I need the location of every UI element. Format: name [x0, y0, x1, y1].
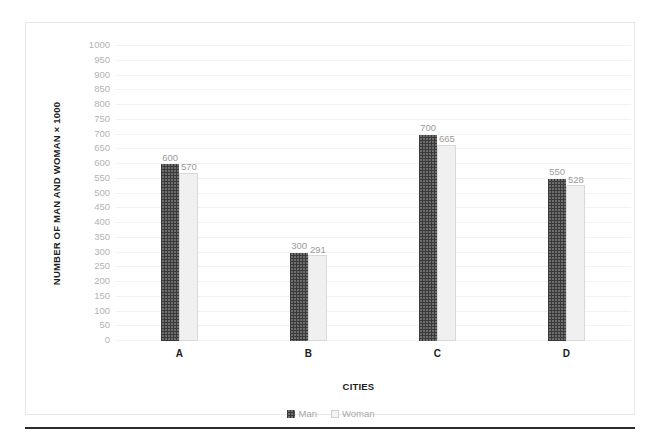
bar-value-label: 665: [438, 134, 455, 144]
y-axis-tick-label: 950: [94, 55, 110, 65]
bars-layer: 600570A300291B700665C550528D: [115, 46, 631, 341]
legend-label: Man: [298, 409, 316, 419]
bar-pair: 300291B: [290, 46, 327, 341]
y-axis-tick-label: 600: [94, 158, 110, 168]
bar-value-label: 550: [548, 167, 567, 177]
y-axis-title: NUMBER OF MAN AND WOMAN × 1000: [48, 46, 66, 341]
plot-area: 0501001502002503003504004505005506006507…: [86, 46, 631, 364]
y-axis-tick-label: 800: [94, 99, 110, 109]
bar-value-label: 291: [309, 245, 326, 255]
y-axis-tick-label: 50: [99, 321, 110, 331]
bar-pair: 700665C: [419, 46, 456, 341]
y-axis-tick-label: 900: [94, 70, 110, 80]
x-axis-category-label: B: [290, 349, 327, 359]
bar-woman-c[interactable]: 665: [437, 145, 456, 341]
legend-label: Woman: [342, 409, 375, 419]
y-axis-tick-label: 700: [94, 129, 110, 139]
bar-man-c[interactable]: 700: [419, 135, 438, 342]
bar-woman-d[interactable]: 528: [566, 185, 585, 341]
bar-man-b[interactable]: 300: [290, 253, 309, 342]
y-axis-tick-label: 850: [94, 85, 110, 95]
bar-woman-b[interactable]: 291: [308, 255, 327, 341]
y-axis-tick-label: 300: [94, 247, 110, 257]
bar-group: 550528D: [502, 46, 631, 341]
bar-group: 600570A: [115, 46, 244, 341]
y-axis-tick-label: 1000: [89, 40, 110, 50]
y-axis-tick-label: 500: [94, 188, 110, 198]
x-axis-category-label: A: [161, 349, 198, 359]
bar-group: 300291B: [244, 46, 373, 341]
bar-pair: 550528D: [548, 46, 585, 341]
bar-man-d[interactable]: 550: [548, 179, 567, 341]
bar-value-label: 300: [290, 241, 309, 251]
chart-legend: ManWoman: [26, 409, 636, 419]
bar-value-label: 528: [567, 175, 584, 185]
bar-value-label: 570: [180, 162, 197, 172]
legend-item-man[interactable]: Man: [287, 409, 316, 419]
y-axis-tick-label: 200: [94, 276, 110, 286]
bar-value-label: 700: [419, 123, 438, 133]
y-axis-tick-label: 150: [94, 291, 110, 301]
bar-man-a[interactable]: 600: [161, 164, 180, 341]
x-axis-category-label: D: [548, 349, 585, 359]
bar-value-label: 600: [161, 153, 180, 163]
bottom-divider-rule: [25, 427, 635, 429]
x-axis-category-label: C: [419, 349, 456, 359]
y-axis-tick-label: 650: [94, 144, 110, 154]
bar-woman-a[interactable]: 570: [179, 173, 198, 341]
y-axis-tick-label: 250: [94, 262, 110, 272]
y-axis-tick-label: 750: [94, 114, 110, 124]
bar-group: 700665C: [373, 46, 502, 341]
y-axis-tick-label: 400: [94, 217, 110, 227]
chart-frame: NUMBER OF MAN AND WOMAN × 1000 050100150…: [25, 22, 635, 415]
legend-item-woman[interactable]: Woman: [331, 409, 375, 419]
man-swatch-icon: [287, 410, 295, 418]
y-axis-tick-label: 0: [105, 335, 110, 345]
bar-pair: 600570A: [161, 46, 198, 341]
woman-swatch-icon: [331, 410, 339, 418]
x-axis-title: CITIES: [86, 381, 631, 392]
y-axis-tick-label: 350: [94, 232, 110, 242]
y-axis-tick-label: 100: [94, 306, 110, 316]
y-axis-tick-label: 550: [94, 173, 110, 183]
y-axis-tick-label: 450: [94, 203, 110, 213]
